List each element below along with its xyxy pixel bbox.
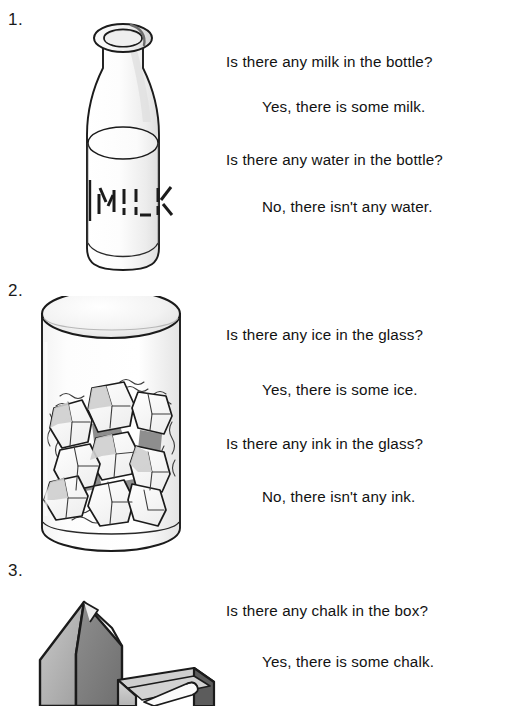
glass-of-ice-illustration bbox=[32, 296, 207, 558]
answer-line: No, there isn't any ink. bbox=[262, 488, 415, 505]
answer-line: Yes, there is some milk. bbox=[262, 98, 425, 115]
milk-bottle-illustration bbox=[48, 12, 198, 282]
exercise-number-2: 2. bbox=[8, 281, 23, 301]
answer-line: Yes, there is some chalk. bbox=[262, 653, 434, 670]
question-line: Is there any chalk in the box? bbox=[226, 602, 428, 619]
answer-line: Yes, there is some ice. bbox=[262, 381, 418, 398]
question-line: Is there any water in the bottle? bbox=[226, 151, 443, 168]
question-line: Is there any milk in the bottle? bbox=[226, 53, 433, 70]
question-line: Is there any ice in the glass? bbox=[226, 326, 423, 343]
exercise-number-1: 1. bbox=[8, 10, 23, 30]
chalk-box-lid-right-panel bbox=[76, 602, 122, 706]
milk-surface-level bbox=[88, 127, 158, 159]
glass-top-rim bbox=[42, 296, 180, 338]
exercise-number-3: 3. bbox=[8, 561, 23, 581]
bottle-mouth-opening bbox=[105, 31, 141, 46]
answer-line: No, there isn't any water. bbox=[262, 198, 433, 215]
worksheet-page: 1. bbox=[0, 0, 515, 706]
question-line: Is there any ink in the glass? bbox=[226, 435, 423, 452]
box-of-chalk-illustration bbox=[18, 588, 218, 706]
